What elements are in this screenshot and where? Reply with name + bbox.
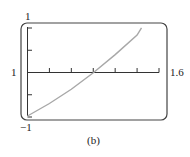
figure-caption: (b): [87, 135, 100, 146]
function-curve: [28, 28, 142, 116]
y-max-label: 1: [25, 11, 31, 22]
x-ticks: [49, 68, 159, 73]
x-max-label: 1.6: [170, 67, 184, 78]
x-min-label: 1: [11, 67, 17, 78]
y-min-label: −1: [20, 122, 32, 133]
axes: [27, 27, 159, 117]
